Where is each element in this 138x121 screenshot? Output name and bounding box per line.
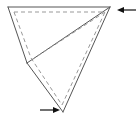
arrow-bottom [40, 107, 60, 113]
left-upper-edge [8, 7, 27, 63]
arrow-bottom-head [53, 107, 60, 113]
arrow-top-right [117, 7, 136, 13]
mid-left-to-bottom-edge [27, 63, 63, 112]
fold-line-right-to-mid [33, 12, 105, 59]
figure-canvas [0, 0, 138, 121]
fold-line-bottom-to-right [62, 12, 105, 105]
solid-outline-group [8, 7, 110, 112]
geometry-diagram [0, 0, 138, 121]
dashed-fold-group [14, 12, 105, 105]
arrow-top-right-head [117, 7, 124, 13]
fold-line-mid-to-bottom [31, 58, 62, 105]
